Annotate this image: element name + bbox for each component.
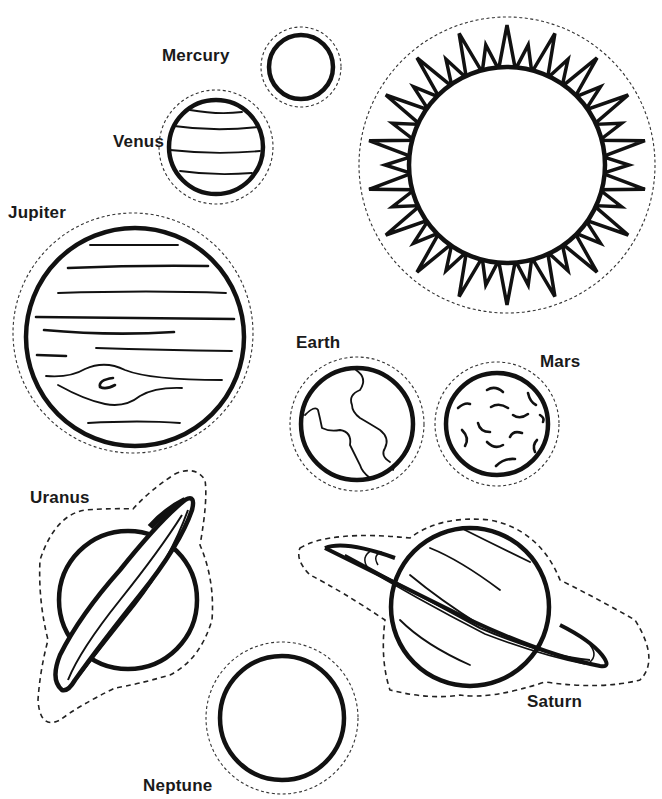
planet-neptune-icon: [206, 642, 358, 794]
planet-earth-icon: [290, 357, 424, 491]
planet-uranus-icon: [38, 471, 213, 723]
planet-mars-icon: [435, 362, 559, 486]
label-saturn: Saturn: [527, 692, 582, 712]
label-mars: Mars: [540, 352, 581, 372]
label-neptune: Neptune: [143, 776, 212, 796]
label-uranus: Uranus: [30, 488, 90, 508]
planet-jupiter-icon: [13, 213, 253, 453]
planet-mercury-icon: [261, 27, 341, 107]
solar-system-drawing: [0, 0, 662, 799]
label-venus: Venus: [113, 132, 164, 152]
planet-saturn-icon: [299, 519, 649, 697]
label-earth: Earth: [296, 333, 340, 353]
planet-venus-icon: [159, 90, 273, 204]
label-mercury: Mercury: [162, 46, 230, 66]
sun-icon: [359, 17, 655, 313]
label-jupiter: Jupiter: [8, 203, 66, 223]
